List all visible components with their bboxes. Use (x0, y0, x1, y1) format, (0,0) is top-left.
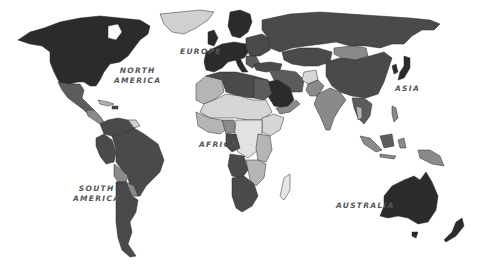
label-north-america-line2: AMERICA (114, 76, 161, 86)
label-asia: ASIA (395, 84, 420, 94)
label-africa: AFRICA (199, 140, 238, 150)
region-borneo (380, 134, 394, 148)
region-sumatra (360, 136, 382, 152)
world-map-svg (0, 0, 489, 269)
region-madagascar (280, 174, 290, 200)
region-east-africa (256, 134, 272, 162)
region-japan (398, 56, 410, 80)
label-north-america-line1: NORTH (114, 66, 161, 76)
region-korea (392, 64, 398, 74)
label-south-america-line2: AMERICA (73, 194, 120, 204)
label-europe-line1: EUROPE (180, 47, 222, 57)
label-australia-line1: AUSTRALIA (336, 201, 395, 211)
region-caribbean (98, 100, 114, 106)
world-map: NORTH AMERICA EUROPE ASIA AFRICA SOUTH A… (0, 0, 489, 269)
region-india (314, 88, 346, 130)
label-south-america: SOUTH AMERICA (73, 184, 120, 204)
region-sulawesi (398, 138, 406, 148)
region-central-america (86, 110, 104, 124)
region-new-zealand (444, 218, 464, 242)
region-nigeria (222, 120, 236, 134)
label-africa-line1: AFRICA (199, 140, 238, 150)
region-greenland (160, 10, 214, 34)
region-thailand (356, 106, 362, 120)
region-philippines (392, 106, 398, 122)
label-north-america: NORTH AMERICA (114, 66, 161, 86)
region-caribbean-east (112, 106, 118, 109)
label-europe: EUROPE (180, 47, 222, 57)
region-scandinavia (228, 10, 252, 38)
label-asia-line1: ASIA (395, 84, 420, 94)
region-central-asia (282, 48, 332, 66)
region-new-guinea (418, 150, 444, 166)
region-uk (208, 30, 218, 46)
region-horn-of-africa (262, 114, 284, 136)
region-java (380, 154, 396, 159)
region-australia (380, 172, 438, 224)
label-south-america-line1: SOUTH (73, 184, 120, 194)
region-angola (228, 154, 248, 178)
label-australia: AUSTRALIA (336, 201, 395, 211)
region-tasmania (412, 232, 418, 238)
